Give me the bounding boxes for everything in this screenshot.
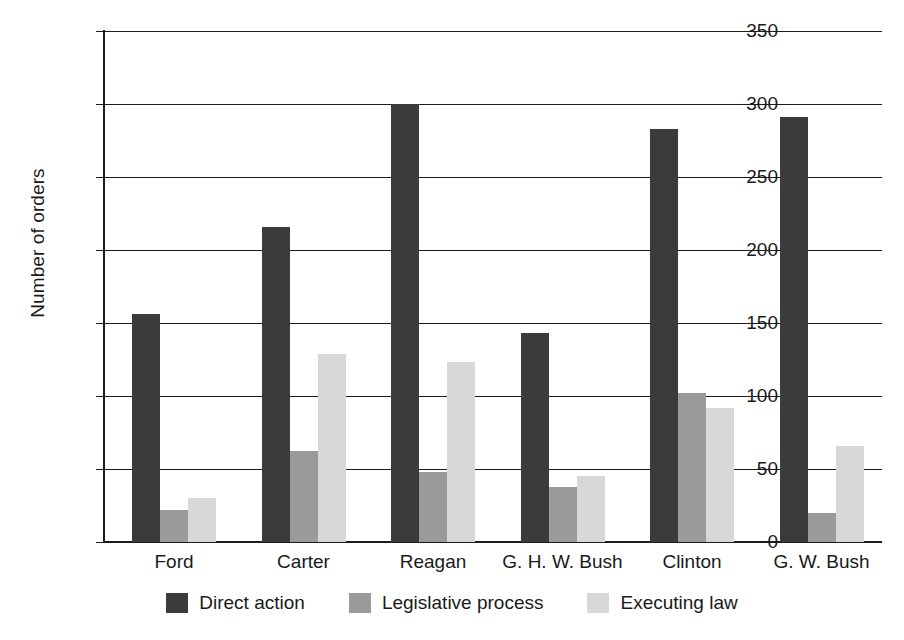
legend-item[interactable]: Legislative process [349, 592, 544, 614]
bar [419, 472, 447, 542]
y-tick-mark [96, 104, 103, 105]
bar-group [262, 31, 346, 542]
bar [521, 333, 549, 542]
y-tick-mark [96, 177, 103, 178]
legend-label: Executing law [620, 592, 737, 614]
legend-item[interactable]: Direct action [166, 592, 305, 614]
bar-group [132, 31, 216, 542]
legend-swatch-icon [587, 593, 609, 613]
bar-group [650, 31, 734, 542]
bar [549, 487, 577, 542]
bar-group [521, 31, 605, 542]
bar [188, 498, 216, 542]
bar [391, 104, 419, 542]
x-tick-label: G. H. W. Bush [502, 551, 622, 573]
bar [836, 446, 864, 542]
chart-legend: Direct actionLegislative processExecutin… [0, 592, 904, 614]
bar [678, 393, 706, 542]
x-tick-label: Reagan [400, 551, 467, 573]
x-tick-label: G. W. Bush [773, 551, 869, 573]
bar [132, 314, 160, 542]
bar [290, 451, 318, 542]
legend-swatch-icon [166, 593, 188, 613]
bar [447, 362, 475, 542]
y-tick-mark [96, 396, 103, 397]
bar [650, 129, 678, 542]
bar [160, 510, 188, 542]
bar [706, 408, 734, 542]
bar-chart-figure: Number of orders 050100150200250300350 F… [0, 0, 904, 640]
bar [808, 513, 836, 542]
bar [577, 476, 605, 542]
y-tick-mark [96, 542, 103, 543]
bar-group [780, 31, 864, 542]
bar [262, 227, 290, 542]
y-tick-mark [96, 323, 103, 324]
y-axis-title: Number of orders [27, 143, 49, 343]
legend-label: Legislative process [382, 592, 544, 614]
legend-label: Direct action [199, 592, 305, 614]
plot-area: 050100150200250300350 FordCarterReaganG.… [104, 31, 882, 542]
y-tick-mark [96, 469, 103, 470]
legend-swatch-icon [349, 593, 371, 613]
y-tick-mark [96, 250, 103, 251]
x-tick-label: Carter [277, 551, 330, 573]
y-axis-line [103, 30, 105, 543]
x-tick-label: Clinton [662, 551, 721, 573]
x-tick-label: Ford [154, 551, 193, 573]
bar [318, 354, 346, 542]
legend-item[interactable]: Executing law [587, 592, 737, 614]
y-tick-mark [96, 31, 103, 32]
bar-group [391, 31, 475, 542]
bar [780, 117, 808, 542]
